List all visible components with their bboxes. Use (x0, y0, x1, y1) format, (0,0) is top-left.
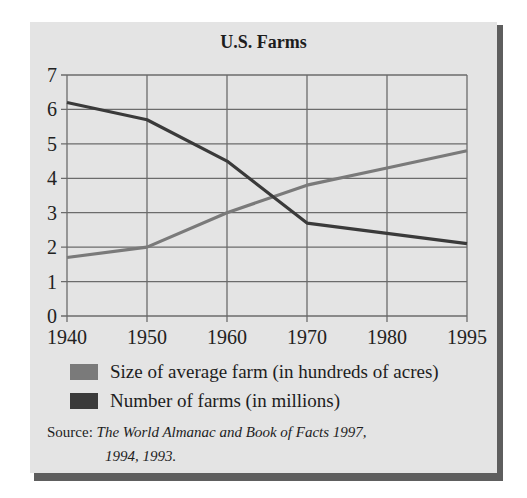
chart-panel: U.S. Farms 01234567 19401950196019701980… (30, 22, 497, 473)
y-tick-label: 0 (47, 305, 57, 327)
x-tick-label: 1950 (127, 326, 167, 348)
source-years: 1994, 1993. (47, 444, 367, 468)
y-tick-label: 6 (47, 98, 57, 120)
x-tick-label: 1960 (207, 326, 247, 348)
x-tick-label: 1940 (47, 326, 87, 348)
legend-label-size: Size of average farm (in hundreds of acr… (110, 361, 439, 383)
y-tick-label: 4 (47, 167, 57, 189)
y-tick-label: 7 (47, 64, 57, 86)
series-line-1 (67, 103, 467, 244)
y-tick-label: 5 (47, 133, 57, 155)
legend-item-number: Number of farms (in millions) (70, 392, 340, 410)
source-note: Source: The World Almanac and Book of Fa… (47, 420, 367, 468)
legend-swatch-number (70, 393, 98, 409)
data-series (67, 103, 467, 258)
source-label: Source: (47, 424, 93, 440)
y-tick-label: 2 (47, 236, 57, 258)
y-tick-label: 3 (47, 202, 57, 224)
y-axis-ticks: 01234567 (47, 64, 57, 327)
x-tick-label: 1970 (287, 326, 327, 348)
x-tick-label: 1980 (367, 326, 407, 348)
legend-item-size: Size of average farm (in hundreds of acr… (70, 363, 439, 381)
x-axis-ticks: 194019501960197019801995 (47, 326, 487, 348)
x-tick-label: 1995 (447, 326, 487, 348)
legend-swatch-size (70, 364, 98, 380)
legend-label-number: Number of farms (in millions) (110, 390, 340, 412)
y-tick-label: 1 (47, 271, 57, 293)
series-line-0 (67, 151, 467, 258)
source-work: The World Almanac and Book of Facts 1997… (97, 424, 367, 440)
